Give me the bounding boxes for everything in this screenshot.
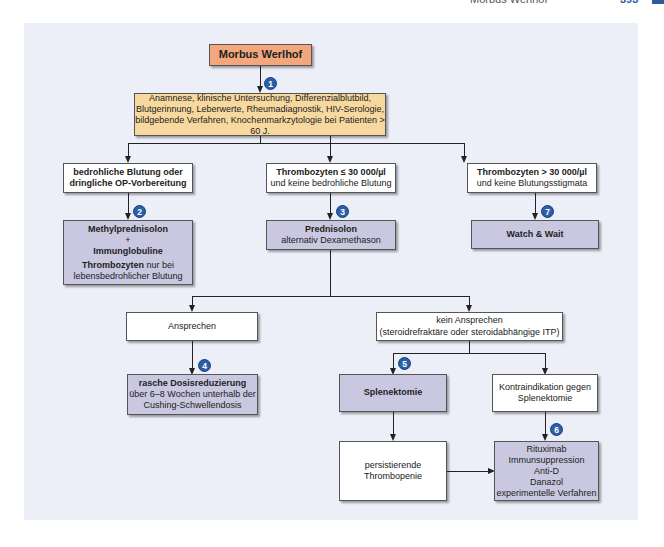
connector bbox=[260, 136, 261, 143]
arrow-head bbox=[542, 434, 548, 441]
diagnostics-line: Anamnese, klinische Untersuchung, Differ… bbox=[149, 93, 371, 104]
arrow-head bbox=[390, 434, 396, 441]
arrow-head bbox=[532, 213, 538, 220]
therapy-line: nur bei bbox=[144, 260, 174, 270]
condition-line: und keine Blutungsstigmata bbox=[477, 178, 588, 190]
connector bbox=[393, 353, 394, 369]
diagnostics-line: Blutgerinnung, Leberwerte, Rheumadiagnos… bbox=[136, 104, 384, 115]
page-number: 393 bbox=[620, 0, 638, 5]
connector bbox=[447, 471, 489, 472]
root-box: Morbus Werlhof bbox=[209, 44, 312, 66]
contraindication-box: Kontraindikation gegen Splenektomie bbox=[492, 374, 598, 412]
connector bbox=[128, 143, 464, 144]
step-badge-7: 7 bbox=[541, 205, 554, 218]
connector bbox=[330, 250, 331, 296]
arrow-head bbox=[125, 156, 131, 163]
step-badge-4: 4 bbox=[198, 359, 211, 372]
therapy-line: Prednisolon bbox=[305, 224, 357, 236]
dose-line: über 6–8 Wochen unterhalb der bbox=[129, 389, 255, 400]
dose-line: Cushing-Schwellendosis bbox=[143, 400, 241, 411]
persistent-line: Thrombopenie bbox=[364, 471, 422, 483]
therapy-line-bold: Thrombozyten bbox=[82, 260, 144, 270]
connector bbox=[393, 353, 545, 354]
no-response-line: kein Ansprechen bbox=[436, 315, 503, 327]
condition-line: Thrombozyten > 30 000/µl bbox=[477, 167, 587, 179]
condition-line: bedrohliche Blutung oder bbox=[73, 167, 183, 179]
step-badge-2: 2 bbox=[133, 205, 146, 218]
condition-line: dringliche OP-Vorbereitung bbox=[70, 178, 187, 190]
connector bbox=[393, 412, 394, 435]
connector bbox=[545, 412, 546, 435]
diagnostics-line: bildgebende Verfahren, Knochenmarkzytolo… bbox=[135, 115, 385, 137]
second-line-item: Anti-D bbox=[534, 466, 559, 477]
connector bbox=[260, 66, 261, 86]
second-line-box: Rituximab Immunsuppression Anti-D Danazo… bbox=[494, 441, 599, 501]
page-marker bbox=[652, 0, 664, 4]
arrow-head bbox=[461, 156, 467, 163]
connector bbox=[192, 296, 469, 297]
therapy-label: Watch & Wait bbox=[507, 229, 564, 241]
therapy-line: lebensbedrohlicher Blutung bbox=[73, 271, 182, 282]
therapy-box-prednisolon: Prednisolon alternativ Dexamethason bbox=[266, 220, 396, 250]
condition-line: und keine bedrohliche Blutung bbox=[270, 178, 391, 190]
diagnostics-box: Anamnese, klinische Untersuchung, Differ… bbox=[134, 93, 386, 136]
arrow-head bbox=[327, 213, 333, 220]
no-response-line: (steroidrefraktäre oder steroidabhängige… bbox=[379, 327, 559, 339]
therapy-box-watch-wait: Watch & Wait bbox=[471, 220, 599, 249]
persistent-line: persistierende bbox=[365, 460, 422, 472]
arrow-head bbox=[125, 213, 131, 220]
connector bbox=[545, 353, 546, 369]
root-label: Morbus Werlhof bbox=[219, 49, 303, 61]
response-label: Ansprechen bbox=[168, 321, 216, 333]
step-badge-6: 6 bbox=[550, 423, 563, 436]
connector bbox=[128, 143, 129, 157]
therapy-box-methylprednisolon: Methylprednisolon + Immunglobuline Throm… bbox=[63, 220, 193, 285]
splenectomy-label: Splenektomie bbox=[364, 387, 423, 399]
step-badge-5: 5 bbox=[398, 357, 411, 370]
arrow-head bbox=[189, 305, 195, 312]
connector bbox=[192, 341, 193, 369]
second-line-item: Danazol bbox=[530, 477, 563, 488]
therapy-line: alternativ Dexamethason bbox=[281, 235, 381, 247]
therapy-plus: + bbox=[125, 235, 130, 246]
dose-line: rasche Dosisreduzierung bbox=[139, 378, 247, 389]
connector bbox=[330, 136, 331, 157]
splenectomy-box: Splenektomie bbox=[339, 374, 447, 412]
connector bbox=[535, 193, 536, 214]
condition-box-high-platelets: Thrombozyten > 30 000/µl und keine Blutu… bbox=[467, 163, 597, 193]
connector bbox=[464, 143, 465, 157]
second-line-item: Immunsuppression bbox=[508, 455, 584, 466]
therapy-line: Methylprednisolon bbox=[88, 224, 168, 235]
therapy-line: Immunglobuline bbox=[93, 246, 163, 257]
step-badge-1: 1 bbox=[264, 77, 277, 90]
connector bbox=[128, 193, 129, 214]
condition-box-bleeding: bedrohliche Blutung oder dringliche OP-V… bbox=[63, 163, 193, 193]
second-line-item: Rituximab bbox=[526, 444, 566, 455]
contraindication-line: Splenektomie bbox=[518, 393, 573, 405]
arrow-head bbox=[466, 305, 472, 312]
persistent-box: persistierende Thrombopenie bbox=[339, 441, 447, 501]
connector bbox=[469, 341, 470, 353]
condition-line: Thrombozyten ≤ 30 000/µl bbox=[276, 167, 386, 179]
dose-reduction-box: rasche Dosisreduzierung über 6–8 Wochen … bbox=[127, 374, 258, 415]
contraindication-line: Kontraindikation gegen bbox=[499, 382, 591, 394]
response-box: Ansprechen bbox=[126, 312, 258, 341]
running-title: Morbus Werlhof bbox=[470, 0, 547, 5]
connector bbox=[330, 193, 331, 214]
step-badge-3: 3 bbox=[336, 205, 349, 218]
condition-box-low-platelets: Thrombozyten ≤ 30 000/µl und keine bedro… bbox=[266, 163, 396, 193]
second-line-item: experimentelle Verfahren bbox=[496, 488, 596, 499]
arrow-head bbox=[327, 156, 333, 163]
no-response-box: kein Ansprechen (steroidrefraktäre oder … bbox=[376, 312, 563, 341]
